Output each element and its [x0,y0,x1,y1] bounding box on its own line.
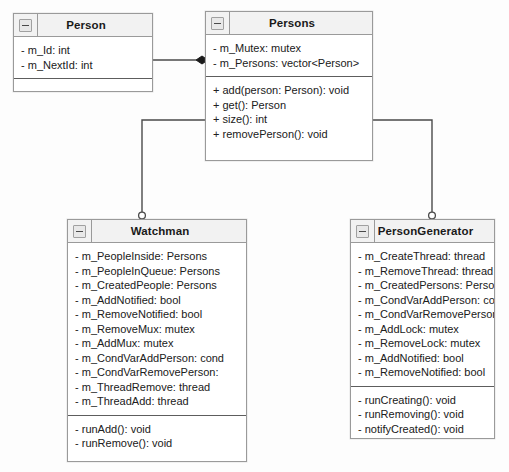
uml-diagram-canvas: Person - m_Id: int - m_NextId: int Perso… [0,0,509,472]
attribute-item: - m_CreatedPersons: Person [351,278,494,293]
attribute-item: - m_RemoveNotified: bool [351,365,494,380]
attributes-compartment: - m_CreateThread: thread - m_RemoveThrea… [351,243,494,386]
connector-person-to-persons [153,56,208,64]
attribute-item: - m_Mutex: mutex [206,41,372,56]
methods-compartment: + add(person: Person): void + get(): Per… [206,76,372,147]
method-item: - runRemove(): void [68,436,246,451]
attributes-compartment: - m_Id: int - m_NextId: int [14,37,152,78]
method-item: + removePerson(): void [206,127,372,142]
collapse-minus-icon[interactable] [73,225,86,238]
attribute-item: - m_PeopleInQueue: Persons [68,264,246,279]
method-item: + get(): Person [206,98,372,113]
hollow-circle-marker [139,212,146,219]
method-item: + add(person: Person): void [206,83,372,98]
connector-persons-to-persongenerator [373,120,435,219]
uml-class-header: Watchman [68,220,246,243]
attribute-item: - m_CondVarRemovePerson [351,307,494,322]
attribute-item: - m_CreateThread: thread [351,249,494,264]
method-item: - notifyRemoved(): void [351,436,494,439]
attribute-item: - m_ThreadAdd: thread [68,394,246,409]
method-item: - runAdd(): void [68,422,246,437]
attribute-item: - m_ThreadRemove: thread [68,380,246,395]
uml-class-watchman[interactable]: Watchman - m_PeopleInside: Persons - m_P… [67,219,247,462]
connector-line [142,120,205,212]
hollow-circle-marker [429,212,436,219]
attribute-item: - m_CondVarRemovePerson: [68,365,246,380]
attribute-item: - m_CondVarAddPerson: cond [68,351,246,366]
methods-compartment: - runCreating(): void - runRemoving(): v… [351,386,494,440]
uml-class-persons[interactable]: Persons - m_Mutex: mutex - m_Persons: ve… [205,11,373,161]
attribute-item: - m_AddLock: mutex [351,322,494,337]
connector-line [373,120,432,212]
method-item: - runRemoving(): void [351,407,494,422]
attributes-compartment: - m_PeopleInside: Persons - m_PeopleInQu… [68,243,246,415]
method-item: - notifyCreated(): void [351,422,494,437]
uml-class-name: Persons [230,17,372,29]
attributes-compartment: - m_Mutex: mutex - m_Persons: vector<Per… [206,35,372,76]
uml-class-name: Person [38,19,152,31]
collapse-minus-icon[interactable] [19,19,32,32]
attribute-item: - m_CondVarAddPerson: co [351,293,494,308]
collapse-minus-icon[interactable] [356,225,369,238]
attribute-item: - m_CreatedPeople: Persons [68,278,246,293]
collapse-minus-icon[interactable] [211,17,224,30]
connector-persons-to-watchman [139,120,205,219]
attribute-item: - m_RemoveNotified: bool [68,307,246,322]
attribute-item: - m_AddNotified: bool [68,293,246,308]
attribute-item: - m_AddMux: mutex [68,336,246,351]
attribute-item: - m_RemoveLock: mutex [351,336,494,351]
attribute-item: - m_PeopleInside: Persons [68,249,246,264]
method-item: - runCreating(): void [351,393,494,408]
uml-class-name: PersonGenerator [375,225,494,237]
uml-class-person[interactable]: Person - m_Id: int - m_NextId: int [13,13,153,92]
method-item: + size(): int [206,112,372,127]
uml-class-header: PersonGenerator [351,220,494,243]
attribute-item: - m_AddNotified: bool [351,351,494,366]
uml-class-header: Persons [206,12,372,35]
uml-class-persongenerator[interactable]: PersonGenerator - m_CreateThread: thread… [350,219,495,439]
methods-compartment: - runAdd(): void - runRemove(): void [68,415,246,457]
uml-class-name: Watchman [92,225,246,237]
uml-class-header: Person [14,14,152,37]
attribute-item: - m_Id: int [14,43,152,58]
attribute-item: - m_NextId: int [14,58,152,73]
attribute-item: - m_RemoveMux: mutex [68,322,246,337]
attribute-item: - m_Persons: vector<Person> [206,56,372,71]
attribute-item: - m_RemoveThread: thread [351,264,494,279]
methods-compartment [14,78,152,87]
